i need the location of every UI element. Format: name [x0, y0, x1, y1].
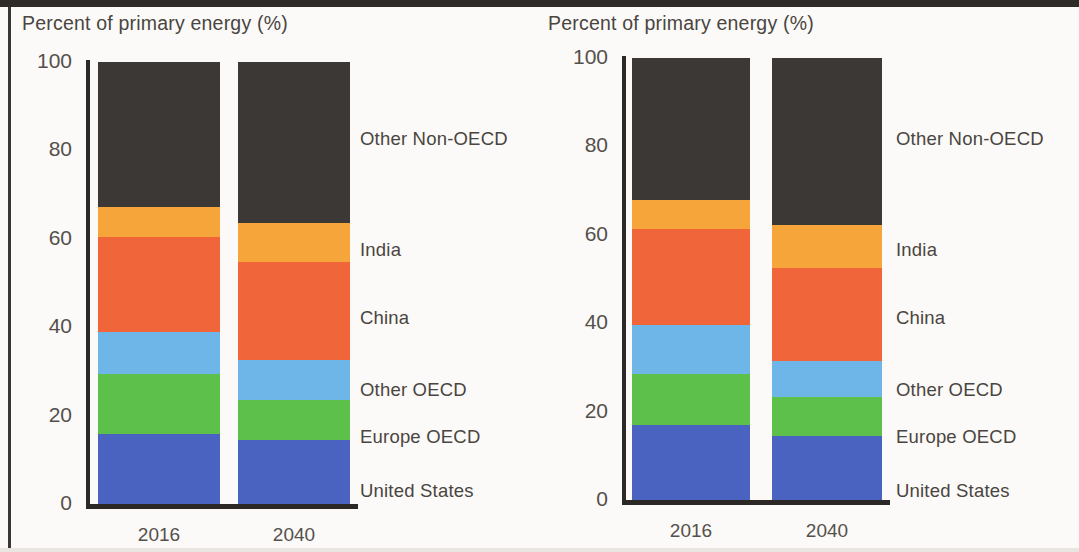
stacked-bar-2016	[98, 62, 220, 504]
legend-label-europe-oecd: Europe OECD	[896, 426, 1016, 448]
legend-label-india: India	[360, 239, 401, 261]
x-axis-tick-label: 2016	[612, 520, 770, 542]
bar-segment-europe-oecd	[632, 374, 750, 425]
bar-segment-europe-oecd	[772, 397, 882, 436]
x-axis-tick-label: 2040	[752, 520, 902, 542]
x-axis-tick-label: 2016	[78, 524, 240, 546]
bar-segment-india	[772, 225, 882, 268]
y-axis-tick-label: 80	[2, 137, 72, 161]
bar-segment-europe-oecd	[238, 400, 350, 440]
stacked-bar-chart-right: Percent of primary energy (%) 1008060402…	[532, 0, 1071, 552]
bar-segment-other-non-oecd	[632, 58, 750, 200]
bar-segment-united-states	[98, 434, 220, 504]
bar-segment-india	[238, 223, 350, 261]
y-axis-tick-label: 40	[2, 314, 72, 338]
stacked-bar-chart-left: Percent of primary energy (%) 1008060402…	[0, 0, 539, 552]
stacked-bar-2040	[238, 62, 350, 504]
legend-label-united-states: United States	[360, 480, 474, 502]
legend-label-other-non-oecd: Other Non-OECD	[360, 128, 508, 150]
y-axis-tick-label: 20	[538, 399, 608, 423]
legend-label-india: India	[896, 239, 937, 261]
bar-segment-china	[98, 237, 220, 332]
y-axis-tick-label: 40	[538, 310, 608, 334]
bar-segment-other-oecd	[772, 361, 882, 397]
y-axis-tick-label: 0	[538, 487, 608, 511]
bar-segment-india	[632, 200, 750, 229]
figure-page: Percent of primary energy (%) 1008060402…	[0, 0, 1079, 552]
bar-segment-china	[238, 262, 350, 360]
legend-label-other-non-oecd: Other Non-OECD	[896, 128, 1044, 150]
y-axis-tick-label: 60	[2, 226, 72, 250]
bar-segment-united-states	[772, 436, 882, 500]
legend-label-other-oecd: Other OECD	[896, 379, 1003, 401]
bar-segment-other-oecd	[98, 332, 220, 374]
y-axis-tick-label: 80	[538, 133, 608, 157]
bar-segment-other-non-oecd	[772, 58, 882, 225]
stacked-bar-2016	[632, 58, 750, 500]
bar-segment-china	[632, 229, 750, 325]
legend-label-china: China	[896, 307, 945, 329]
bar-segment-other-non-oecd	[98, 62, 220, 207]
legend-label-europe-oecd: Europe OECD	[360, 426, 480, 448]
y-axis-tick-label: 0	[2, 491, 72, 515]
y-axis-line	[86, 60, 90, 508]
y-axis-tick-label: 60	[538, 222, 608, 246]
bar-segment-other-oecd	[632, 325, 750, 374]
legend-label-other-oecd: Other OECD	[360, 379, 467, 401]
x-axis-line	[86, 504, 358, 509]
bar-segment-europe-oecd	[98, 374, 220, 434]
bar-segment-india	[98, 207, 220, 237]
x-axis-tick-label: 2040	[218, 524, 370, 546]
bar-segment-other-non-oecd	[238, 62, 350, 223]
stacked-bar-2040	[772, 58, 882, 500]
bar-segment-china	[772, 268, 882, 361]
legend-label-united-states: United States	[896, 480, 1010, 502]
chart-title-left: Percent of primary energy (%)	[22, 12, 288, 35]
y-axis-line	[622, 56, 626, 504]
bar-segment-united-states	[632, 425, 750, 500]
bar-segment-united-states	[238, 440, 350, 504]
y-axis-tick-label: 100	[2, 49, 72, 73]
legend-label-china: China	[360, 307, 409, 329]
x-axis-line	[622, 500, 890, 505]
y-axis-tick-label: 20	[2, 403, 72, 427]
chart-title-right: Percent of primary energy (%)	[548, 12, 814, 35]
y-axis-tick-label: 100	[538, 45, 608, 69]
bar-segment-other-oecd	[238, 360, 350, 400]
